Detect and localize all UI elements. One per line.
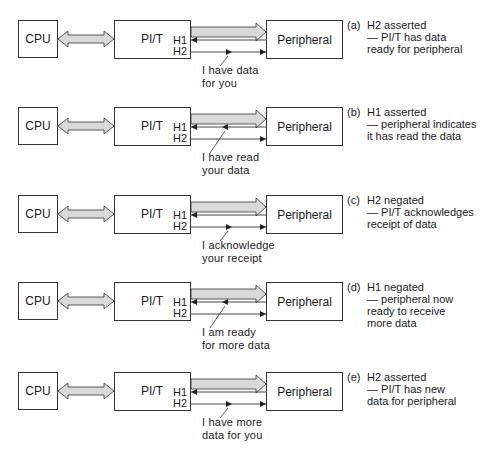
signal-caption: I have moredata for you [202,416,263,442]
h1-arrowhead [191,299,197,305]
cpu-label: CPU [25,32,50,46]
peripheral-box: Peripheral [266,107,343,146]
cpu-label: CPU [25,119,50,133]
step-description-text: H2 negated— PI/T acknowledgesreceipt of … [367,194,474,230]
peripheral-label: Peripheral [277,208,332,222]
cpu-pit-bus-arrow [58,293,114,309]
data-bus-arrow [191,110,266,128]
description-line: H2 asserted [367,19,462,31]
description-line: — peripheral now [367,293,453,305]
data-bus-arrow [191,285,266,303]
cpu-box: CPU [18,107,58,145]
pit-label: PI/T [141,384,163,398]
description-line: — peripheral indicates [367,118,476,130]
caption-line: for you [202,77,259,90]
pit-box: PI/T H1 H2 [114,195,191,234]
h2-label: H2 [173,132,187,144]
description-line: ready to receive [367,305,453,317]
h1-arrowhead [191,212,197,218]
description-line: receipt of data [367,218,474,230]
caption-line: your data [202,164,259,177]
cpu-box: CPU [18,282,58,320]
caption-line: I acknowledge [202,239,275,252]
h1-arrowhead [191,124,197,130]
cpu-pit-bus-arrow [58,118,114,134]
step-description-text: H2 asserted— PI/T has newdata for periph… [367,371,456,407]
pit-box: PI/T H1 H2 [114,20,191,59]
signal-caption: I have datafor you [202,64,259,90]
handshake-step: CPU PI/T H1 H2 Peripheral I have datafor… [0,20,492,108]
cpu-pit-bus-arrow [58,31,114,47]
signal-marker-arrowhead [222,299,228,305]
description-line: — PI/T acknowledges [367,206,474,218]
step-tag: (b) [347,106,360,118]
handshake-step: CPU PI/T H1 H2 Peripheral I have readyou… [0,107,492,195]
h2-label: H2 [173,45,187,57]
description-line: H1 asserted [367,106,476,118]
h2-label: H2 [173,397,187,409]
cpu-box: CPU [18,195,58,233]
peripheral-box: Peripheral [266,372,343,411]
cpu-box: CPU [18,20,58,58]
h1-arrowhead [191,389,197,395]
cpu-label: CPU [25,294,50,308]
pit-label: PI/T [141,119,163,133]
description-line: it has read the data [367,130,476,142]
signal-marker-arrowhead [222,124,228,130]
peripheral-label: Peripheral [277,120,332,134]
step-description-text: H2 asserted— PI/T has dataready for peri… [367,19,462,55]
description-line: ready for peripheral [367,43,462,55]
handshake-step: CPU PI/T H1 H2 Peripheral I am readyfor … [0,282,492,370]
signal-marker-arrowhead [226,224,232,230]
caption-pointer-line [210,131,225,153]
data-bus-arrow [191,375,266,393]
description-line: H2 negated [367,194,474,206]
caption-line: I am ready [202,326,270,339]
step-description-text: H1 negated— peripheral nowready to recei… [367,281,453,329]
signal-caption: I acknowledgeyour receipt [202,239,275,265]
caption-line: I have read [202,151,259,164]
description-line: — PI/T has data [367,31,462,43]
signal-marker-arrowhead [226,49,232,55]
description-line: — PI/T has new [367,383,456,395]
pit-box: PI/T H1 H2 [114,282,191,321]
signal-caption: I have readyour data [202,151,259,177]
description-line: data for peripheral [367,395,456,407]
cpu-pit-bus-arrow [58,206,114,222]
signal-caption: I am readyfor more data [202,326,270,352]
pit-box: PI/T H1 H2 [114,372,191,411]
step-description-text: H1 asserted— peripheral indicatesit has … [367,106,476,142]
step-tag: (c) [347,194,360,206]
step-tag: (a) [347,19,360,31]
caption-pointer-line [210,306,225,328]
step-tag: (d) [347,281,360,293]
pit-box: PI/T H1 H2 [114,107,191,146]
h2-label: H2 [173,307,187,319]
data-bus-arrow [191,23,266,41]
handshake-step: CPU PI/T H1 H2 Peripheral I acknowledgey… [0,195,492,283]
h2-label: H2 [173,220,187,232]
peripheral-box: Peripheral [266,282,343,321]
handshake-step: CPU PI/T H1 H2 Peripheral I have moredat… [0,372,492,460]
caption-line: I have more [202,416,263,429]
caption-line: your receipt [202,252,275,265]
description-line: H1 negated [367,281,453,293]
data-bus-arrow [191,198,266,216]
pit-label: PI/T [141,32,163,46]
cpu-label: CPU [25,384,50,398]
caption-line: data for you [202,429,263,442]
peripheral-box: Peripheral [266,20,343,59]
peripheral-label: Peripheral [277,385,332,399]
pit-label: PI/T [141,207,163,221]
description-line: H2 asserted [367,371,456,383]
h1-arrowhead [191,37,197,43]
signal-marker-arrowhead [226,401,232,407]
caption-line: I have data [202,64,259,77]
peripheral-box: Peripheral [266,195,343,234]
peripheral-label: Peripheral [277,295,332,309]
cpu-pit-bus-arrow [58,383,114,399]
step-tag: (e) [347,371,360,383]
peripheral-label: Peripheral [277,33,332,47]
cpu-label: CPU [25,207,50,221]
caption-line: for more data [202,339,270,352]
